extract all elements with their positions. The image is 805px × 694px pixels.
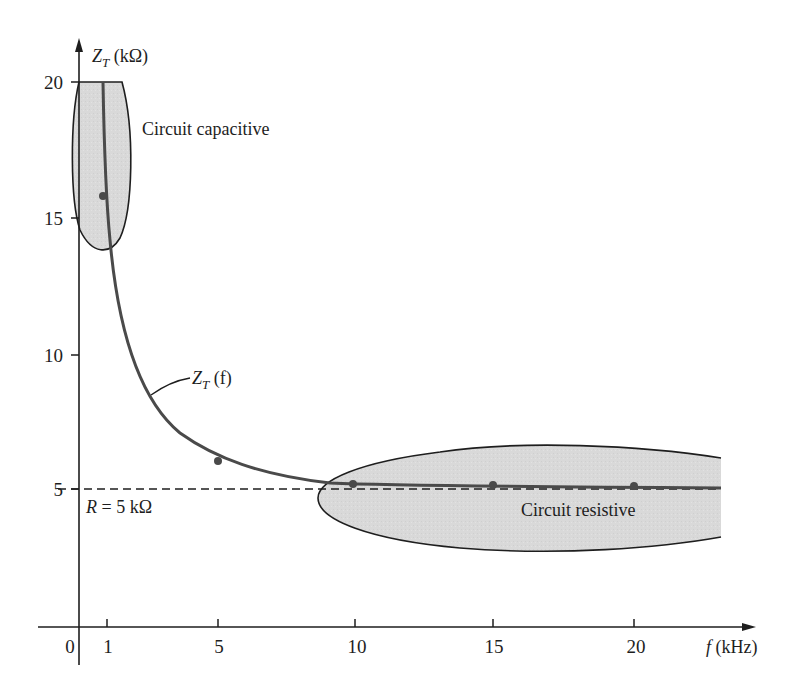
y-axis-arrow-icon xyxy=(75,38,83,52)
resistance-label: R = 5 kΩ xyxy=(85,497,152,517)
y-tick-label-10: 10 xyxy=(44,345,63,366)
x-tick-label-15: 15 xyxy=(485,636,504,657)
impedance-curve xyxy=(103,82,721,488)
x-tick-label-0: 0 xyxy=(65,636,75,657)
y-axis-title: ZT (kΩ) xyxy=(92,46,148,70)
curve-label-leader xyxy=(151,378,190,395)
y-tick-label-5: 5 xyxy=(54,479,64,500)
y-tick-label-20: 20 xyxy=(44,72,63,93)
impedance-chart: 20 15 10 5 0 1 5 10 15 20 ZT (kΩ) f (kHz… xyxy=(0,0,805,694)
data-point-f20 xyxy=(630,482,638,490)
data-point-f15 xyxy=(489,481,497,489)
capacitive-region-label: Circuit capacitive xyxy=(142,119,269,139)
curve-label: ZT (f) xyxy=(192,368,232,392)
x-tick-label-10: 10 xyxy=(348,636,367,657)
x-tick-label-20: 20 xyxy=(627,636,646,657)
x-tick-label-5: 5 xyxy=(214,636,224,657)
data-point-f10 xyxy=(349,480,357,488)
data-point-f1 xyxy=(99,192,107,200)
resistive-region-label: Circuit resistive xyxy=(521,500,635,520)
x-axis-title: f (kHz) xyxy=(706,637,758,658)
data-point-f5 xyxy=(214,457,222,465)
y-tick-label-15: 15 xyxy=(44,208,63,229)
capacitive-region xyxy=(72,82,130,250)
x-tick-label-1: 1 xyxy=(103,636,113,657)
x-ticks xyxy=(107,619,634,627)
x-axis-arrow-icon xyxy=(742,623,756,631)
